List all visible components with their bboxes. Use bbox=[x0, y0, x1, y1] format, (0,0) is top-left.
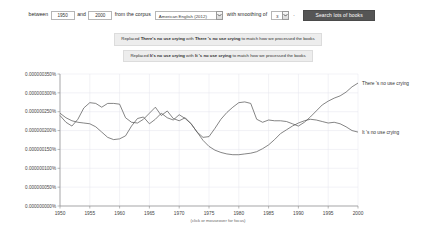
notice-suffix: to match how we processed the books bbox=[240, 36, 314, 41]
x-axis-note: (click or mouseover for focus) bbox=[191, 218, 247, 223]
x-axis-ticks: 1950195519601965197019751980198519901995… bbox=[55, 206, 364, 216]
chevron-down-icon bbox=[216, 11, 223, 20]
y-tick-label: 0.000000350% bbox=[25, 72, 56, 77]
y-tick-label: 0.000000100% bbox=[25, 166, 56, 171]
x-tick-label: 2000 bbox=[353, 211, 364, 216]
ngram-chart[interactable]: 0.000000000%0.000000050%0.000000100%0.00… bbox=[0, 66, 436, 242]
replacement-notice: Replaced There's no use crying with Ther… bbox=[114, 33, 321, 46]
y-tick-label: 0.000000150% bbox=[25, 147, 56, 152]
notice-prefix: Replaced bbox=[121, 36, 140, 41]
notice-original-term: There's no use crying bbox=[141, 36, 185, 41]
year-end-input[interactable] bbox=[88, 11, 112, 20]
y-tick-label: 0.000000000% bbox=[25, 204, 56, 209]
notice-middle: with bbox=[185, 53, 195, 58]
x-tick-label: 1950 bbox=[55, 211, 66, 216]
search-button[interactable]: Search lots of books bbox=[303, 10, 375, 21]
x-tick-label: 1965 bbox=[144, 211, 155, 216]
smoothing-label: with smoothing of bbox=[227, 12, 267, 17]
y-axis-ticks: 0.000000000%0.000000050%0.000000100%0.00… bbox=[25, 72, 60, 209]
search-button-label: Search lots of books bbox=[316, 12, 363, 18]
notice-middle: with bbox=[185, 36, 195, 41]
series-label[interactable]: It 's no use crying bbox=[362, 130, 400, 135]
corpus-label: from the corpus bbox=[115, 12, 151, 17]
x-tick-label: 1975 bbox=[204, 211, 215, 216]
y-tick-label: 0.000000050% bbox=[25, 185, 56, 190]
chart-canvas[interactable]: 0.000000000%0.000000050%0.000000100%0.00… bbox=[0, 66, 436, 242]
series-label[interactable]: There 's no use crying bbox=[362, 81, 409, 86]
query-toolbar: between and from the corpus American Eng… bbox=[0, 0, 436, 30]
smoothing-select[interactable]: 3 bbox=[271, 11, 289, 20]
notice-prefix: Replaced bbox=[130, 53, 149, 58]
notice-replacement-term: There 's no use crying bbox=[195, 36, 240, 41]
corpus-select-value: American English (2012) bbox=[155, 11, 216, 20]
x-tick-label: 1985 bbox=[263, 211, 274, 216]
x-tick-label: 1990 bbox=[293, 211, 304, 216]
y-tick-label: 0.000000300% bbox=[25, 91, 56, 96]
x-tick-label: 1970 bbox=[174, 211, 185, 216]
x-tick-label: 1960 bbox=[114, 211, 125, 216]
x-tick-label: 1995 bbox=[323, 211, 334, 216]
chevron-down-icon bbox=[282, 11, 289, 20]
series-labels[interactable]: There 's no use cryingIt 's no use cryin… bbox=[362, 81, 409, 135]
and-label: and bbox=[77, 12, 86, 17]
x-tick-label: 1980 bbox=[233, 211, 244, 216]
chart-gridlines bbox=[60, 74, 358, 206]
replacement-notice: Replaced It's no use crying with It 's n… bbox=[123, 50, 312, 63]
notice-suffix: to match how we processed the books bbox=[231, 53, 305, 58]
corpus-select[interactable]: American English (2012) bbox=[155, 11, 223, 20]
replacement-notices: Replaced There's no use crying with Ther… bbox=[0, 33, 436, 62]
y-tick-label: 0.000000250% bbox=[25, 109, 56, 114]
year-start-input[interactable] bbox=[51, 11, 75, 20]
notice-original-term: It's no use crying bbox=[150, 53, 185, 58]
notice-replacement-term: It 's no use crying bbox=[195, 53, 231, 58]
x-tick-label: 1955 bbox=[84, 211, 95, 216]
smoothing-select-value: 3 bbox=[271, 11, 282, 20]
period-label: . bbox=[293, 12, 294, 17]
between-label: between bbox=[29, 12, 49, 17]
y-tick-label: 0.000000200% bbox=[25, 128, 56, 133]
